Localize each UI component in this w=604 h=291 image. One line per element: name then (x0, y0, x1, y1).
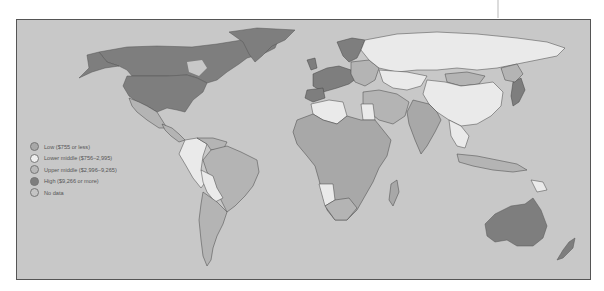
corner-mark (497, 0, 499, 18)
legend-item-no-data: No data (30, 187, 117, 199)
legend-item-high: High ($9,266 or more) (30, 176, 117, 188)
region-new-zealand (557, 238, 575, 260)
region-central-asia (379, 70, 427, 90)
legend-label: Low ($755 or less) (44, 144, 90, 150)
region-egypt (361, 104, 375, 120)
legend-item-upper-middle: Upper middle ($2,996–9,265) (30, 164, 117, 176)
legend-swatch-no-data (30, 188, 39, 197)
legend-label: Lower middle ($756–2,995) (44, 155, 112, 161)
region-australia (485, 198, 547, 246)
region-iberia (305, 88, 325, 102)
region-papua (531, 180, 547, 192)
legend-item-low: Low ($755 or less) (30, 141, 117, 153)
region-russia (361, 32, 565, 72)
legend-swatch-lower-middle (30, 154, 39, 163)
legend-label: High ($9,266 or more) (44, 178, 99, 184)
region-uk (307, 58, 317, 70)
region-central-america (162, 124, 185, 142)
legend-label: Upper middle ($2,996–9,265) (44, 167, 117, 173)
region-indonesia (457, 154, 527, 172)
legend-swatch-low (30, 142, 39, 151)
region-western-europe (313, 66, 357, 92)
region-japan (511, 78, 525, 106)
map-legend: Low ($755 or less) Lower middle ($756–2,… (30, 141, 117, 199)
legend-label: No data (44, 190, 64, 196)
legend-item-lower-middle: Lower middle ($756–2,995) (30, 153, 117, 165)
legend-swatch-high (30, 177, 39, 186)
legend-swatch-upper-middle (30, 165, 39, 174)
region-madagascar (389, 180, 399, 206)
